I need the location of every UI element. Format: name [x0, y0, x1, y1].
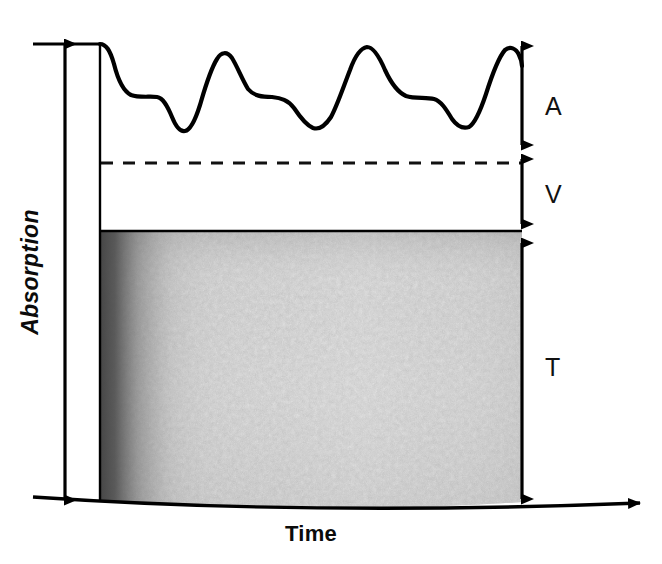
segment-label-tissue: T	[545, 353, 560, 381]
absorption-time-figure: Absorption Time A V T	[0, 0, 662, 564]
tissue-band-edge-shade	[100, 231, 522, 516]
segment-label-venous: V	[545, 180, 562, 208]
tissue-absorption-band	[100, 231, 522, 516]
figure-canvas: Absorption Time A V T	[0, 0, 662, 564]
y-axis-label: Absorption	[17, 209, 43, 336]
segment-label-arterial: A	[545, 92, 562, 120]
arterial-pulse-waveform	[33, 44, 522, 131]
x-axis-label: Time	[285, 521, 337, 546]
waveform-path	[100, 44, 522, 131]
